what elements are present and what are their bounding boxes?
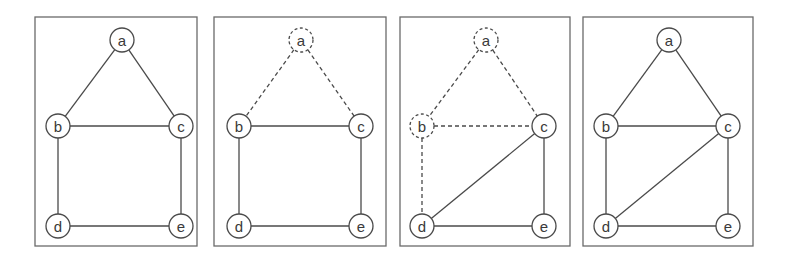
- node-label: c: [177, 118, 185, 135]
- edge-c-d: [615, 134, 718, 219]
- edge-a-c: [129, 50, 174, 116]
- node-b: b: [410, 114, 434, 138]
- edge-a-b: [246, 50, 294, 117]
- node-b: b: [46, 114, 70, 138]
- node-label: c: [724, 118, 732, 135]
- node-c: c: [169, 114, 193, 138]
- node-label: e: [357, 218, 365, 235]
- node-d: d: [410, 214, 434, 238]
- node-label: b: [235, 118, 243, 135]
- edge-a-b: [65, 50, 115, 117]
- node-e: e: [716, 214, 740, 238]
- edge-a-c: [493, 50, 538, 116]
- node-label: e: [177, 218, 185, 235]
- node-label: b: [418, 118, 426, 135]
- edge-a-c: [676, 50, 721, 116]
- node-b: b: [594, 114, 618, 138]
- node-c: c: [349, 114, 373, 138]
- graph-elimination-figure: abcdeabcdeabcdeabcde: [0, 0, 785, 261]
- node-label: d: [602, 218, 610, 235]
- edge-c-d: [431, 134, 534, 219]
- node-e: e: [532, 214, 556, 238]
- node-label: a: [118, 32, 127, 49]
- panel-3: abcde: [400, 17, 570, 246]
- node-label: c: [540, 118, 548, 135]
- node-a: a: [110, 28, 134, 52]
- node-label: a: [665, 32, 674, 49]
- panel-1: abcde: [35, 17, 197, 246]
- node-a: a: [657, 28, 681, 52]
- panel-2: abcde: [214, 17, 386, 246]
- node-b: b: [227, 114, 251, 138]
- node-label: a: [297, 32, 306, 49]
- node-label: d: [418, 218, 426, 235]
- node-label: d: [54, 218, 62, 235]
- edge-a-b: [429, 50, 479, 117]
- node-d: d: [227, 214, 251, 238]
- node-label: b: [602, 118, 610, 135]
- node-c: c: [716, 114, 740, 138]
- edge-a-c: [308, 50, 354, 116]
- node-label: e: [724, 218, 732, 235]
- node-label: d: [235, 218, 243, 235]
- node-label: b: [54, 118, 62, 135]
- edge-a-b: [613, 50, 662, 117]
- node-label: e: [540, 218, 548, 235]
- node-e: e: [349, 214, 373, 238]
- node-a: a: [289, 28, 313, 52]
- node-e: e: [169, 214, 193, 238]
- node-label: c: [357, 118, 365, 135]
- panel-4: abcde: [583, 17, 753, 246]
- node-label: a: [482, 32, 491, 49]
- node-c: c: [532, 114, 556, 138]
- node-a: a: [474, 28, 498, 52]
- node-d: d: [46, 214, 70, 238]
- node-d: d: [594, 214, 618, 238]
